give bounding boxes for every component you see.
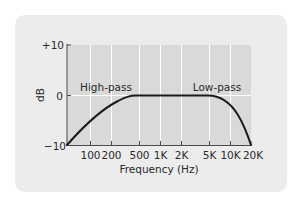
x-tick-labels: 100 200 500 1K 2K 5K 10K 20K — [80, 149, 264, 161]
y-tick-label-0: 0 — [56, 90, 63, 102]
x-tick-label: 2K — [175, 149, 190, 161]
high-pass-label: High-pass — [80, 81, 132, 93]
y-axis-title: dB — [34, 88, 46, 102]
y-tick-label-minus10: −10 — [44, 140, 66, 152]
y-tick-label-plus10: +10 — [42, 39, 64, 51]
filter-response-chart: +10 0 −10 dB 100 200 500 1K 2K 5K 10K 20… — [0, 0, 298, 204]
x-tick-label: 200 — [101, 149, 121, 161]
x-tick-label: 20K — [243, 149, 264, 161]
x-tick-label: 5K — [203, 149, 218, 161]
x-axis-title: Frequency (Hz) — [119, 163, 198, 175]
x-tick-label: 1K — [154, 149, 169, 161]
x-tick-label: 10K — [220, 149, 241, 161]
x-tick-label: 500 — [129, 149, 149, 161]
low-pass-label: Low-pass — [193, 81, 242, 93]
x-tick-label: 100 — [80, 149, 100, 161]
